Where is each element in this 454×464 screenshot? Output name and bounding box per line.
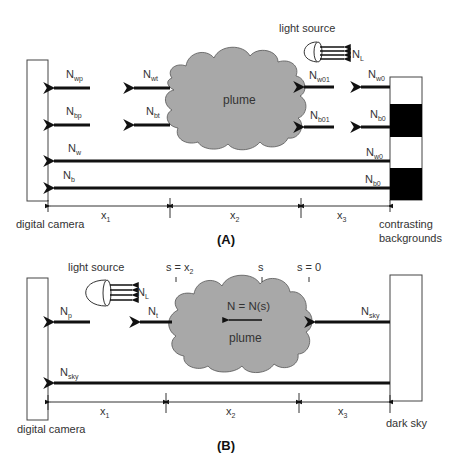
- dist-x2-b: x2: [226, 405, 236, 419]
- caption-b: (B): [217, 438, 235, 453]
- plume-label-b: plume: [229, 331, 262, 345]
- camera-box-a: [27, 60, 48, 201]
- s-marker-s: s: [258, 261, 264, 273]
- panel-a: digital camera contrasting backgrounds p…: [16, 22, 442, 247]
- label-nw01: Nw01: [309, 69, 330, 83]
- light-flux-label-b: NL: [137, 286, 149, 300]
- panel-b: digital camera dark sky N = N(s) plume s…: [17, 261, 427, 453]
- label-nbt: Nbt: [146, 105, 160, 119]
- contrasting-backgrounds: [390, 77, 422, 200]
- label-nt: Nt: [148, 305, 158, 319]
- light-source-icon-a: [304, 42, 344, 62]
- s-marker-x2: s = x2: [166, 261, 194, 275]
- label-nb0-long: Nb0: [365, 173, 381, 187]
- label-nsky-long: Nsky: [60, 366, 79, 381]
- label-nwt: Nwt: [143, 68, 158, 82]
- label-nw: Nw: [68, 142, 82, 156]
- sky-label: dark sky: [386, 417, 427, 429]
- dist-x3-a: x3: [337, 209, 347, 223]
- dist-x3-b: x3: [338, 405, 348, 419]
- label-nw0-long: Nw0: [366, 146, 383, 160]
- light-source-icon-b: [86, 280, 132, 306]
- label-nb0: Nb0: [370, 108, 386, 122]
- camera-label-a: digital camera: [16, 218, 85, 230]
- caption-a: (A): [217, 232, 235, 247]
- light-source-label-a: light source: [279, 22, 335, 34]
- camera-label-b: digital camera: [17, 423, 86, 435]
- label-nb01: Nb01: [310, 109, 330, 123]
- label-nbp: Nbp: [66, 105, 82, 120]
- plume-equation: N = N(s): [227, 300, 270, 312]
- background-label-2: backgrounds: [379, 232, 442, 244]
- dark-sky-box: [390, 275, 422, 401]
- dist-x2-a: x2: [230, 209, 240, 223]
- label-nwp: Nwp: [66, 68, 83, 83]
- dist-x1-a: x1: [101, 209, 111, 223]
- camera-box-b: [27, 278, 48, 420]
- dist-x1-b: x1: [100, 405, 110, 419]
- plume-label-a: plume: [223, 93, 256, 107]
- background-label-1: contrasting: [379, 218, 433, 230]
- diagram-canvas: digital camera contrasting backgrounds p…: [0, 0, 454, 464]
- s-marker-0: s = 0: [297, 261, 321, 273]
- plume-cloud-b: [169, 275, 312, 372]
- label-nsky-short: Nsky: [361, 305, 380, 320]
- light-source-label-b: light source: [68, 261, 124, 273]
- label-np: Np: [60, 305, 72, 320]
- label-nb: Nb: [63, 169, 75, 183]
- label-nw0: Nw0: [368, 68, 385, 82]
- light-flux-label-a: NL: [352, 48, 364, 62]
